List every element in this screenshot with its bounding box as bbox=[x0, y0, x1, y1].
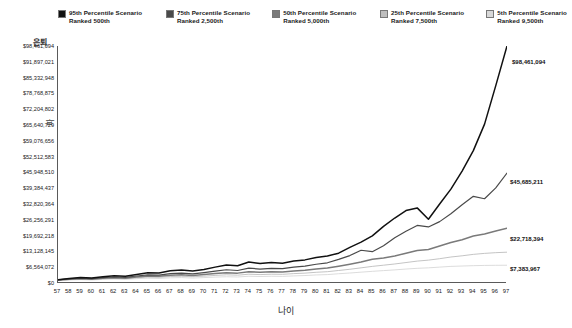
x-axis-tick-labels: 5758596061626364656667686970717273747576… bbox=[57, 287, 506, 299]
y-axis-tick: $19,692,218 bbox=[23, 233, 54, 239]
legend-label-line2: Ranked 5,000th bbox=[283, 17, 329, 24]
legend-label-line2: Ranked 9,500th bbox=[497, 17, 543, 24]
legend-label-line2: Ranked 500th bbox=[69, 17, 110, 24]
y-axis-tick: $39,384,437 bbox=[23, 185, 54, 191]
legend-label-line1: 50th Percentile Scenario bbox=[283, 9, 356, 16]
legend-swatch-icon bbox=[272, 10, 280, 18]
legend-label: 5th Percentile Scenario Ranked 9,500th bbox=[497, 9, 567, 26]
y-axis-tick: $65,640,729 bbox=[23, 122, 54, 128]
legend-item-25th[interactable]: 25th Percentile Scenario Ranked 7,500th bbox=[380, 9, 474, 26]
y-axis-tick: $72,204,802 bbox=[23, 106, 54, 112]
legend-label-line1: 5th Percentile Scenario bbox=[497, 9, 567, 16]
legend-swatch-icon bbox=[380, 10, 388, 18]
y-axis-tick: $85,332,948 bbox=[23, 75, 54, 81]
y-axis-tick: $32,820,364 bbox=[23, 201, 54, 207]
end-label-50th: $22,718,394 bbox=[510, 236, 543, 243]
chart-legend: 95th Percentile Scenario Ranked 500th 75… bbox=[58, 9, 570, 35]
y-axis-tick: $0 bbox=[48, 280, 54, 286]
legend-label-line2: Ranked 2,500th bbox=[177, 17, 223, 24]
legend-item-5th[interactable]: 5th Percentile Scenario Ranked 9,500th bbox=[486, 9, 570, 26]
end-label-5th: $7,383,967 bbox=[510, 266, 540, 273]
legend-label: 75th Percentile Scenario Ranked 2,500th bbox=[177, 9, 250, 26]
y-axis-tick: $6,564,072 bbox=[26, 264, 54, 270]
series-lines bbox=[58, 46, 507, 283]
x-axis-title: 나이 bbox=[0, 304, 572, 317]
legend-swatch-icon bbox=[486, 10, 494, 18]
plot-area bbox=[57, 46, 506, 283]
legend-label: 95th Percentile Scenario Ranked 500th bbox=[69, 9, 142, 26]
legend-label-line1: 75th Percentile Scenario bbox=[177, 9, 250, 16]
legend-swatch-icon bbox=[166, 10, 174, 18]
legend-item-75th[interactable]: 75th Percentile Scenario Ranked 2,500th bbox=[166, 9, 260, 26]
y-axis-tick: $59,076,656 bbox=[23, 138, 54, 144]
legend-item-50th[interactable]: 50th Percentile Scenario Ranked 5,000th bbox=[272, 9, 368, 26]
y-axis-tick: $78,768,875 bbox=[23, 90, 54, 96]
y-axis-tick: $98,461,094 bbox=[23, 43, 54, 49]
series-line bbox=[58, 46, 507, 280]
y-axis-tick: $45,948,510 bbox=[23, 169, 54, 175]
y-axis-tick: $26,256,291 bbox=[23, 217, 54, 223]
x-axis-tick: 97 bbox=[497, 287, 515, 295]
legend-label: 50th Percentile Scenario Ranked 5,000th bbox=[283, 9, 356, 26]
end-label-95th: $98,461,094 bbox=[512, 59, 545, 66]
y-axis-tick: $52,512,583 bbox=[23, 154, 54, 160]
legend-item-95th[interactable]: 95th Percentile Scenario Ranked 500th bbox=[58, 9, 154, 26]
y-axis-tick: $91,897,021 bbox=[23, 59, 54, 65]
end-label-75th: $45,685,211 bbox=[510, 179, 543, 186]
retirement-scenario-chart: 95th Percentile Scenario Ranked 500th 75… bbox=[0, 0, 572, 328]
y-axis-tick: $13,128,145 bbox=[23, 248, 54, 254]
legend-label-line1: 95th Percentile Scenario bbox=[69, 9, 142, 16]
legend-swatch-icon bbox=[58, 10, 66, 18]
legend-label-line1: 25th Percentile Scenario bbox=[391, 9, 464, 16]
legend-label-line2: Ranked 7,500th bbox=[391, 17, 437, 24]
series-line bbox=[58, 228, 507, 280]
legend-label: 25th Percentile Scenario Ranked 7,500th bbox=[391, 9, 464, 26]
y-axis-tick-labels: $98,461,094$91,897,021$85,332,948$78,768… bbox=[0, 40, 54, 290]
